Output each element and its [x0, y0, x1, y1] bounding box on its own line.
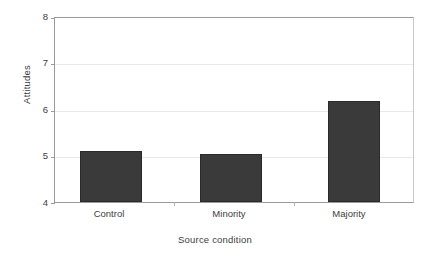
- bar-minority: [200, 154, 262, 202]
- y-tick-label-6: 6: [26, 105, 48, 115]
- x-tickmark-2: [294, 202, 295, 206]
- x-tick-label-majority: Majority: [289, 208, 409, 219]
- y-tickmark-4: [51, 203, 55, 204]
- x-axis-title: Source condition: [0, 234, 430, 245]
- plot-area: [54, 17, 414, 203]
- bar-majority: [328, 101, 380, 202]
- y-tick-label-8: 8: [26, 12, 48, 22]
- y-tickmark-5: [51, 157, 55, 158]
- gridline-7: [55, 64, 413, 65]
- y-tickmark-6: [51, 111, 55, 112]
- x-tick-label-minority: Minority: [169, 208, 289, 219]
- y-tick-label-5: 5: [26, 151, 48, 161]
- y-tick-label-4: 4: [26, 198, 48, 208]
- x-tickmark-1: [174, 202, 175, 206]
- y-tickmark-7: [51, 64, 55, 65]
- x-tick-label-control: Control: [49, 208, 169, 219]
- y-axis-title: Attitudes: [21, 30, 32, 140]
- y-tick-label-7: 7: [26, 58, 48, 68]
- y-tickmark-8: [51, 18, 55, 19]
- bar-chart-figure: Attitudes 8 7 6 5 4 Control Minority Maj…: [0, 0, 430, 259]
- bar-control: [80, 151, 142, 202]
